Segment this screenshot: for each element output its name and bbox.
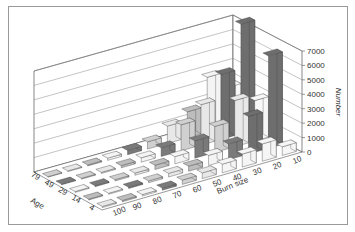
x-tick-label: 90 <box>131 200 143 212</box>
z-tick-label: 2000 <box>307 119 325 128</box>
z-tick-label: 7000 <box>307 47 325 56</box>
bar-chart-3d: 01000200030004000500060007000Number10090… <box>0 0 355 232</box>
z-tick-label: 4000 <box>307 90 325 99</box>
z-tick-label: 1000 <box>307 134 325 143</box>
x-tick-label: 30 <box>251 165 263 177</box>
z-axis-title: Number <box>334 88 343 117</box>
x-tick-label: 10 <box>291 154 303 166</box>
z-tick-label: 5000 <box>307 76 325 85</box>
x-tick-label: 80 <box>151 194 163 206</box>
z-tick-label: 3000 <box>307 105 325 114</box>
y-tick-label: 4 <box>88 203 97 213</box>
x-tick-label: 60 <box>191 183 203 195</box>
y-axis-title: Age <box>29 196 46 211</box>
z-tick-label: 0 <box>307 148 312 157</box>
x-tick-label: 20 <box>271 160 283 172</box>
z-tick-label: 6000 <box>307 61 325 70</box>
x-tick-label: 70 <box>171 189 183 201</box>
